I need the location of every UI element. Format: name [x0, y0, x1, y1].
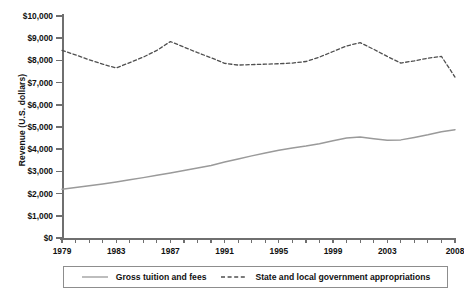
x-tick: [251, 238, 252, 243]
x-tick: [319, 238, 320, 243]
y-tick-label: $7,000: [0, 79, 53, 87]
x-tick: [414, 238, 415, 243]
x-tick: [278, 238, 279, 243]
x-tick: [454, 238, 455, 243]
x-tick: [373, 238, 374, 243]
x-tick: [265, 238, 266, 243]
x-tick: [183, 238, 184, 243]
y-tick-label: $4,000: [0, 145, 53, 153]
y-tick-label: $3,000: [0, 167, 53, 175]
x-tick: [197, 238, 198, 243]
y-tick-label: $1,000: [0, 212, 53, 220]
x-tick: [129, 238, 130, 243]
x-tick: [61, 238, 62, 243]
x-axis-line: [60, 238, 456, 240]
series-lines: [62, 16, 455, 238]
x-tick-label: 1987: [161, 246, 180, 256]
x-tick-label: 1995: [269, 246, 288, 256]
x-tick: [102, 238, 103, 243]
y-tick-label: $5,000: [0, 123, 53, 131]
y-tick-label: $2,000: [0, 190, 53, 198]
legend-label: State and local government appropriation…: [255, 272, 430, 282]
x-tick: [400, 238, 401, 243]
legend-swatch-solid-icon: [81, 273, 109, 281]
x-tick: [387, 238, 388, 243]
legend-item-gross-tuition-and-fees: Gross tuition and fees: [81, 272, 207, 282]
y-tick-label: $6,000: [0, 101, 53, 109]
chart-legend: Gross tuition and fees State and local g…: [63, 266, 448, 288]
x-tick: [441, 238, 442, 243]
x-tick: [332, 238, 333, 243]
y-tick-label: $8,000: [0, 56, 53, 64]
x-tick-label: 1979: [53, 246, 72, 256]
x-tick-label: 2008: [446, 246, 464, 256]
x-tick-label: 2003: [378, 246, 397, 256]
series-line: [62, 130, 455, 190]
legend-swatch-dashed-icon: [220, 273, 248, 281]
x-tick: [156, 238, 157, 243]
y-tick-label: $9,000: [0, 34, 53, 42]
x-tick: [75, 238, 76, 243]
x-tick: [292, 238, 293, 243]
x-tick: [210, 238, 211, 243]
x-tick: [89, 238, 90, 243]
series-line: [62, 42, 455, 78]
x-tick: [143, 238, 144, 243]
y-tick-label: $0: [0, 234, 53, 242]
x-tick-label: 1991: [215, 246, 234, 256]
legend-label: Gross tuition and fees: [116, 272, 207, 282]
x-tick: [238, 238, 239, 243]
x-tick-label: 1983: [107, 246, 126, 256]
plot-area: 19791983198719911995199920032008: [62, 16, 455, 238]
x-tick: [224, 238, 225, 243]
x-tick: [346, 238, 347, 243]
y-tick-label: $10,000: [0, 12, 53, 20]
x-tick: [116, 238, 117, 243]
x-tick: [360, 238, 361, 243]
x-tick: [305, 238, 306, 243]
x-tick: [170, 238, 171, 243]
x-tick: [427, 238, 428, 243]
legend-item-state-and-local-government-appropriations: State and local government appropriation…: [220, 272, 430, 282]
x-tick-label: 1999: [324, 246, 343, 256]
